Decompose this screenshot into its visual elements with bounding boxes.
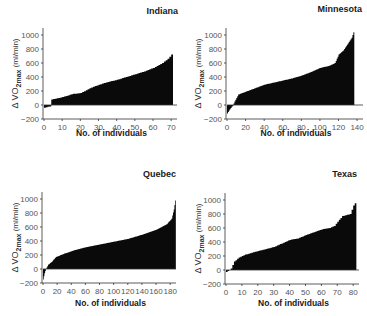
y-tick-label: 600 <box>209 59 223 68</box>
y-axis-label: Δ VO2max (ml/min) <box>193 203 205 273</box>
x-tick-label: 70 <box>167 123 176 132</box>
y-tick-label: 1000 <box>21 31 39 40</box>
panel-title: Minnesota <box>317 4 362 14</box>
panel-indiana: −20002004006008001000010203040506070Indi… <box>10 6 179 138</box>
y-axis-label: Δ VO2max (ml/min) <box>193 38 205 108</box>
panel-title: Indiana <box>146 6 178 16</box>
y-tick-label: 600 <box>26 59 40 68</box>
y-tick-label: 0 <box>35 101 40 110</box>
panel-quebec: −200020040060080010000204060801001201401… <box>10 169 177 308</box>
x-tick-label: 70 <box>333 288 342 297</box>
x-tick-label: 20 <box>53 287 62 296</box>
x-tick-label: 140 <box>350 123 364 132</box>
x-tick-label: 120 <box>332 123 346 132</box>
x-tick-label: 60 <box>81 287 90 296</box>
x-tick-label: 0 <box>42 123 47 132</box>
panel-title: Quebec <box>143 169 176 179</box>
y-tick-label: 400 <box>26 73 40 82</box>
x-axis-label: No. of individuals <box>261 128 332 138</box>
x-tick-label: 0 <box>225 123 230 132</box>
y-tick-label: 800 <box>25 209 39 218</box>
x-tick-label: 50 <box>301 288 310 297</box>
y-tick-label: 200 <box>25 251 39 260</box>
x-axis-label: No. of individuals <box>258 298 329 308</box>
y-tick-label: −200 <box>203 280 222 289</box>
data-bars <box>227 32 354 113</box>
y-tick-label: 200 <box>208 252 222 261</box>
x-tick-label: 180 <box>164 287 178 296</box>
y-tick-label: 600 <box>25 223 39 232</box>
y-tick-label: 0 <box>218 101 223 110</box>
figure: −20002004006008001000010203040506070Indi… <box>0 0 367 316</box>
y-tick-label: 800 <box>208 210 222 219</box>
x-tick-label: 40 <box>67 287 76 296</box>
y-tick-label: −200 <box>21 115 40 124</box>
y-tick-label: 1000 <box>203 196 221 205</box>
panel-minnesota: −20002004006008001000020406080100120140M… <box>193 4 364 138</box>
x-tick-label: 60 <box>149 123 158 132</box>
x-tick-label: 60 <box>317 288 326 297</box>
x-tick-label: 80 <box>95 287 104 296</box>
x-tick-label: 140 <box>135 287 149 296</box>
y-tick-label: 200 <box>26 87 40 96</box>
x-tick-label: 0 <box>224 288 229 297</box>
data-bars <box>44 55 173 108</box>
y-tick-label: 400 <box>208 238 222 247</box>
data-bars <box>226 203 356 272</box>
y-tick-label: 400 <box>209 73 223 82</box>
y-axis-label: Δ VO2max (ml/min) <box>10 202 22 272</box>
panel-title: Texas <box>332 169 357 179</box>
x-axis-label: No. of individuals <box>75 298 146 308</box>
x-tick-label: 40 <box>285 288 294 297</box>
y-tick-label: 1000 <box>20 195 38 204</box>
x-tick-label: 120 <box>121 287 135 296</box>
y-axis-label: Δ VO2max (ml/min) <box>10 38 22 108</box>
x-axis-label: No. of individuals <box>76 128 147 138</box>
y-tick-label: 800 <box>209 45 223 54</box>
y-tick-label: 800 <box>26 45 40 54</box>
y-tick-label: 1000 <box>204 31 222 40</box>
x-tick-label: 20 <box>253 288 262 297</box>
y-tick-label: 600 <box>208 224 222 233</box>
x-tick-label: 20 <box>241 123 250 132</box>
x-tick-label: 160 <box>149 287 163 296</box>
x-tick-label: 30 <box>269 288 278 297</box>
y-tick-label: −200 <box>204 115 223 124</box>
y-tick-label: 200 <box>209 87 223 96</box>
y-tick-label: 0 <box>34 265 39 274</box>
y-tick-label: 400 <box>25 237 39 246</box>
x-tick-label: 10 <box>237 288 246 297</box>
data-bars <box>43 200 176 279</box>
x-tick-label: 100 <box>107 287 121 296</box>
panel-texas: −2000200400600800100001020304050607080Te… <box>193 169 359 308</box>
x-tick-label: 0 <box>41 287 46 296</box>
y-tick-label: −200 <box>20 279 39 288</box>
x-tick-label: 80 <box>349 288 358 297</box>
y-tick-label: 0 <box>217 266 222 275</box>
x-tick-label: 10 <box>58 123 67 132</box>
